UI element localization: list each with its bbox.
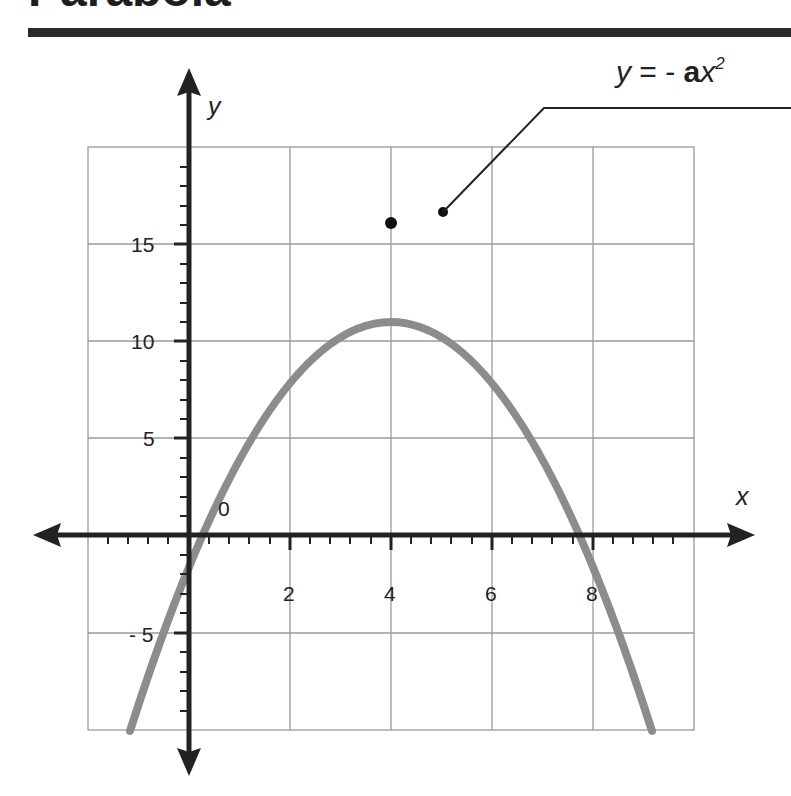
x-tick-label-6: 6 <box>485 582 497 606</box>
formula-leader <box>438 108 791 217</box>
x-tick-label-4: 4 <box>384 582 396 606</box>
origin-label: 0 <box>218 497 230 521</box>
formula-eq: = - <box>631 55 684 88</box>
x-axis-arrow-left <box>33 523 61 547</box>
y-axis-arrow-down <box>177 748 201 776</box>
x-axis-label: x <box>736 482 749 511</box>
vertex-point <box>385 217 397 229</box>
y-axis-arrow-up <box>177 68 201 96</box>
y-tick-label-10: 10 <box>131 330 154 354</box>
y-tick-label-15: 15 <box>131 233 154 257</box>
x-tick-label-2: 2 <box>283 582 295 606</box>
formula-x: x <box>700 55 715 88</box>
formula-a: a <box>684 55 701 88</box>
parabola-chart <box>0 0 791 796</box>
y-axis-label: y <box>208 92 221 121</box>
axes <box>33 68 755 776</box>
formula-label: y = - ax2 <box>616 54 725 89</box>
formula-exponent: 2 <box>715 54 724 73</box>
y-tick-label-5: 5 <box>143 427 155 451</box>
y-tick-label-neg5: - 5 <box>129 623 154 647</box>
x-axis-arrow-right <box>727 523 755 547</box>
x-tick-label-8: 8 <box>586 582 598 606</box>
formula-y: y <box>616 55 631 88</box>
